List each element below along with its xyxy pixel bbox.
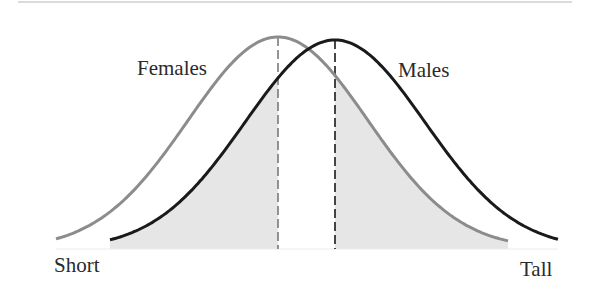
- shaded-region-males-below-female-mean: [110, 78, 278, 249]
- males-label: Males: [398, 60, 449, 81]
- short-axis-label: Short: [54, 255, 100, 276]
- shaded-region-females-above-male-mean: [335, 76, 508, 250]
- females-label: Females: [137, 58, 207, 79]
- tall-axis-label: Tall: [520, 259, 552, 280]
- height-distribution-figure: Females Males Short Tall: [0, 0, 596, 308]
